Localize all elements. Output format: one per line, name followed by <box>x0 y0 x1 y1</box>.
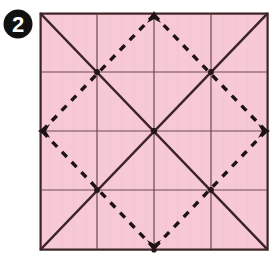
origami-diagram: 2 <box>0 0 276 263</box>
figure-canvas: 2 <box>0 0 276 263</box>
dot-lower-left <box>94 187 100 193</box>
dot-lower-right <box>208 187 214 193</box>
dot-upper-left <box>94 69 100 75</box>
step-number-badge: 2 <box>4 10 33 39</box>
dot-bottom-midpoint <box>151 247 156 252</box>
step-badge-label: 2 <box>12 12 24 37</box>
dot-upper-right <box>208 69 214 75</box>
dot-center <box>151 128 157 134</box>
